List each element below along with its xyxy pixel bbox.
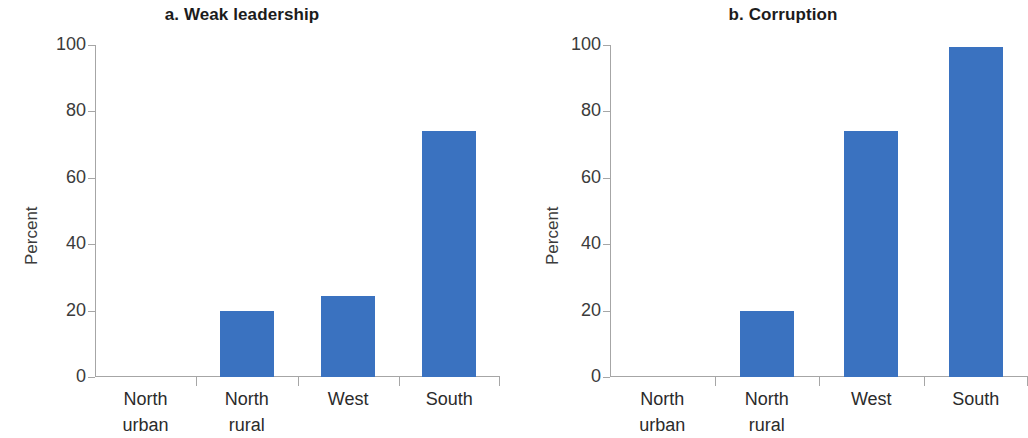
y-axis-tick bbox=[603, 45, 610, 46]
panel-a-category-labels: NorthurbanNorthruralWestSouth bbox=[95, 386, 500, 438]
y-axis-tick bbox=[603, 178, 610, 179]
panel-b-title: b. Corruption bbox=[526, 5, 1028, 25]
y-axis-tick bbox=[603, 111, 610, 112]
y-axis-tick bbox=[603, 311, 610, 312]
y-axis-tick bbox=[88, 45, 95, 46]
panel-b-plot-area: 020406080100 bbox=[610, 45, 1028, 377]
bar bbox=[422, 131, 476, 377]
y-axis-tick bbox=[88, 311, 95, 312]
bar bbox=[220, 311, 274, 377]
y-axis-tick-label: 60 bbox=[66, 167, 86, 188]
y-axis-tick-label: 0 bbox=[591, 366, 601, 387]
y-axis-tick-label: 20 bbox=[66, 300, 86, 321]
bar bbox=[321, 296, 375, 377]
panel-a-y-axis-line bbox=[95, 45, 96, 377]
y-axis-tick bbox=[88, 377, 95, 378]
y-axis-tick-label: 0 bbox=[76, 366, 86, 387]
bar bbox=[949, 47, 1003, 377]
x-axis-category-label: South bbox=[399, 386, 500, 412]
x-axis-category-label: West bbox=[298, 386, 399, 412]
y-axis-tick bbox=[603, 377, 610, 378]
x-axis-tick bbox=[399, 377, 400, 386]
x-axis-tick bbox=[196, 377, 197, 386]
figure-two-panel-bar-charts: a. Weak leadership Percent 020406080100 … bbox=[0, 0, 1028, 438]
y-axis-tick-label: 80 bbox=[66, 100, 86, 121]
x-axis-tick bbox=[819, 377, 820, 386]
panel-b-y-axis-label: Percent bbox=[543, 206, 563, 265]
y-axis-tick-label: 100 bbox=[56, 34, 86, 55]
panel-a-plot-area: 020406080100 bbox=[95, 45, 500, 377]
x-axis-category-label: Northrural bbox=[196, 386, 297, 438]
bar bbox=[740, 311, 794, 377]
y-axis-tick-label: 40 bbox=[581, 233, 601, 254]
y-axis-tick-label: 40 bbox=[66, 233, 86, 254]
x-axis-category-label: Northrural bbox=[715, 386, 820, 438]
panel-a-y-axis-label: Percent bbox=[22, 206, 42, 265]
x-axis-category-label: Northurban bbox=[610, 386, 715, 438]
y-axis-tick bbox=[603, 244, 610, 245]
y-axis-tick-label: 100 bbox=[571, 34, 601, 55]
panel-b-y-axis-line bbox=[610, 45, 611, 377]
y-axis-tick-label: 60 bbox=[581, 167, 601, 188]
y-axis-tick bbox=[88, 244, 95, 245]
y-axis-tick-label: 80 bbox=[581, 100, 601, 121]
panel-a-weak-leadership: a. Weak leadership Percent 020406080100 … bbox=[0, 0, 514, 438]
panel-a-title: a. Weak leadership bbox=[0, 5, 499, 25]
bar bbox=[844, 131, 898, 377]
y-axis-tick bbox=[88, 111, 95, 112]
x-axis-category-label: Northurban bbox=[95, 386, 196, 438]
x-axis-tick bbox=[499, 377, 500, 386]
x-axis-tick bbox=[298, 377, 299, 386]
y-axis-tick bbox=[88, 178, 95, 179]
x-axis-tick bbox=[715, 377, 716, 386]
x-axis-tick bbox=[924, 377, 925, 386]
y-axis-tick-label: 20 bbox=[581, 300, 601, 321]
panel-b-corruption: b. Corruption Percent 020406080100 North… bbox=[514, 0, 1028, 438]
x-axis-category-label: South bbox=[924, 386, 1028, 412]
x-axis-category-label: West bbox=[819, 386, 924, 412]
panel-b-category-labels: NorthurbanNorthruralWestSouth bbox=[610, 386, 1028, 438]
